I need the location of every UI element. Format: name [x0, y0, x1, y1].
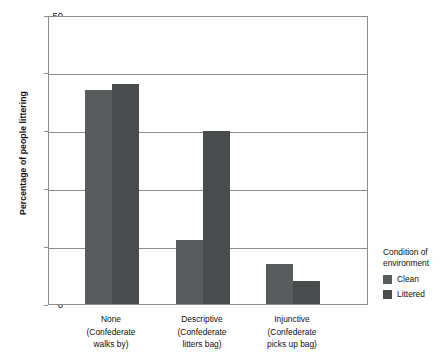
x-label-injunctive-line1: Injunctive	[236, 313, 348, 326]
legend-label-clean: Clean	[397, 274, 419, 284]
legend-item-littered: Littered	[383, 289, 448, 299]
legend-label-littered: Littered	[397, 289, 425, 299]
legend-swatch-littered-icon	[383, 290, 392, 299]
legend-swatch-clean-icon	[383, 275, 392, 284]
x-axis-label-injunctive: Injunctive (Confederate picks up bag)	[236, 313, 348, 351]
bar-chart-figure: Percentage of people littering 50 40 30 …	[0, 0, 448, 354]
bar-none-clean	[85, 90, 112, 304]
x-label-injunctive-line2: (Confederate	[236, 326, 348, 339]
bar-injunctive-clean	[266, 264, 293, 304]
bar-descriptive-littered	[203, 131, 230, 304]
gridline-40	[49, 74, 367, 75]
bar-none-littered	[112, 84, 139, 304]
legend-title-line2: environment	[383, 258, 429, 268]
x-label-injunctive-line3: picks up bag)	[236, 338, 348, 351]
y-axis-title: Percentage of people littering	[18, 68, 28, 238]
legend-title-line1: Condition of	[383, 247, 428, 257]
bar-injunctive-littered	[293, 281, 320, 304]
chart-legend: Condition of environment Clean Littered	[383, 247, 448, 304]
bar-descriptive-clean	[176, 240, 203, 304]
plot-area	[48, 16, 368, 305]
legend-title: Condition of environment	[383, 247, 448, 268]
y-tick-mark-0	[44, 305, 48, 306]
legend-item-clean: Clean	[383, 274, 448, 284]
